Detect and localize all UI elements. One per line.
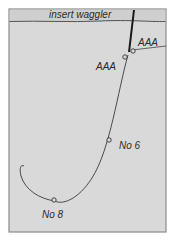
label-no8: No 8 [42, 209, 64, 220]
label-aaa-lower: AAA [95, 61, 116, 72]
label-aaa-top: AAA [137, 37, 158, 48]
shot-aaa-lower [123, 55, 127, 59]
shot-aaa-top [131, 49, 135, 53]
shot-no8 [52, 198, 56, 202]
label-no6: No 6 [119, 140, 141, 151]
shot-no6 [107, 138, 111, 142]
insert-waggler-rig-diagram: insert waggler AAA AAA No 6 No 8 [0, 0, 175, 245]
diagram-title: insert waggler [49, 9, 112, 20]
